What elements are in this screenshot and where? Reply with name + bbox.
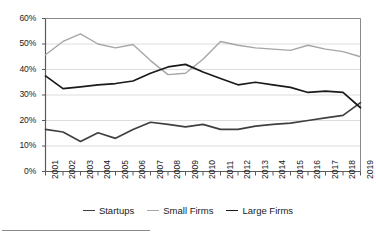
x-axis-tick-label: 2017	[330, 160, 340, 179]
chart-canvas	[0, 0, 376, 238]
x-axis-tick-label: 2015	[295, 160, 305, 179]
legend-label: Small Firms	[163, 205, 213, 216]
x-axis-tick-label: 2019	[365, 160, 375, 179]
y-axis-tick-label: 20%	[2, 115, 36, 125]
x-axis-tick-label: 2014	[277, 160, 287, 179]
x-axis-tick-label: 2018	[347, 160, 357, 179]
y-axis-tick-label: 60%	[2, 13, 36, 23]
x-axis-tick-label: 2009	[190, 160, 200, 179]
series-line-small-firms	[46, 34, 361, 75]
legend-label: Large Firms	[242, 205, 293, 216]
y-axis-tick-label: 0%	[2, 166, 36, 176]
series-line-large-firms	[46, 64, 361, 107]
y-axis-tick-label: 10%	[2, 140, 36, 150]
legend-item-small-firms[interactable]: Small Firms	[147, 205, 213, 216]
x-axis-tick-label: 2005	[120, 160, 130, 179]
legend-line-swatch	[147, 210, 159, 211]
x-axis-tick-label: 2010	[207, 160, 217, 179]
x-axis-tick-label: 2001	[50, 160, 60, 179]
x-axis-tick-label: 2008	[172, 160, 182, 179]
chart-legend: StartupsSmall FirmsLarge Firms	[0, 205, 376, 216]
x-axis-tick-label: 2004	[102, 160, 112, 179]
x-axis-tick-label: 2013	[260, 160, 270, 179]
legend-line-swatch	[226, 210, 238, 211]
y-axis-tick-label: 50%	[2, 38, 36, 48]
x-axis-tick-label: 2012	[242, 160, 252, 179]
y-axis-tick-label: 40%	[2, 64, 36, 74]
x-axis-tick-label: 2007	[155, 160, 165, 179]
series-line-startups	[46, 103, 361, 142]
x-axis-tick-label: 2003	[85, 160, 95, 179]
x-axis-tick-label: 2011	[225, 160, 235, 178]
legend-line-swatch	[83, 210, 95, 211]
line-chart: 0%10%20%30%40%50%60% 2001200220032004200…	[0, 0, 376, 238]
legend-item-large-firms[interactable]: Large Firms	[226, 205, 293, 216]
legend-label: Startups	[99, 205, 134, 216]
x-axis-tick-label: 2002	[67, 160, 77, 179]
y-axis-tick-label: 30%	[2, 89, 36, 99]
legend-item-startups[interactable]: Startups	[83, 205, 134, 216]
footnote-separator	[2, 230, 150, 231]
x-axis-tick-label: 2016	[312, 160, 322, 179]
x-axis-tick-label: 2006	[137, 160, 147, 179]
